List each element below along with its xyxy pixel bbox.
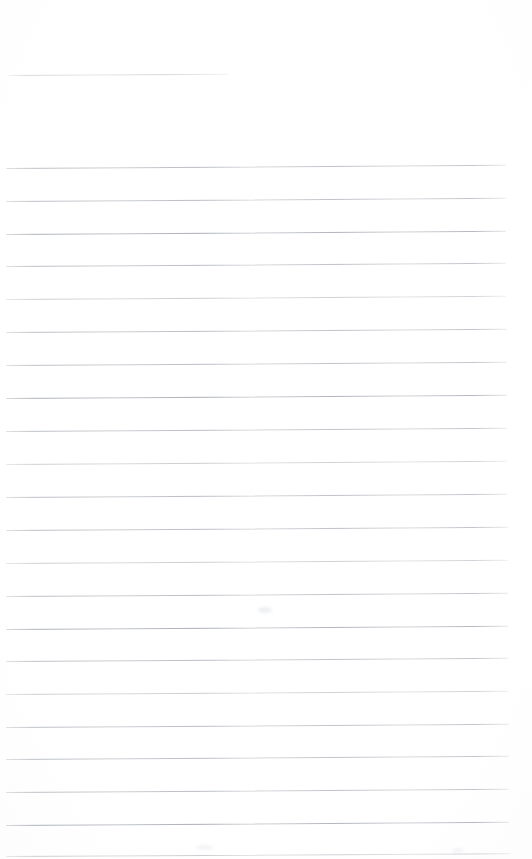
scanned-page [0,0,532,859]
page-body-text [0,0,532,859]
